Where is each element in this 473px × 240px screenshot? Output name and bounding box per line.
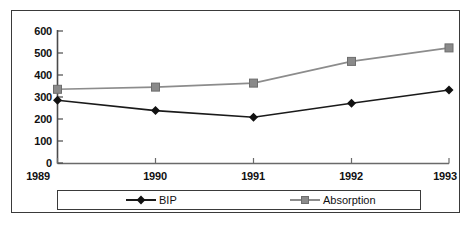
y-tick-label-400: 400 xyxy=(22,69,52,81)
y-tick-label-600: 600 xyxy=(22,25,52,37)
legend-label-absorption: Absorption xyxy=(323,194,376,206)
legend-item-absorption: Absorption xyxy=(290,191,376,209)
legend-swatch-bip xyxy=(126,195,156,205)
x-axis-ticks xyxy=(58,158,450,164)
y-tick-label-0: 0 xyxy=(22,157,52,169)
y-tick-label-200: 200 xyxy=(22,113,52,125)
y-tick-label-100: 100 xyxy=(22,135,52,147)
y-tick-label-500: 500 xyxy=(22,47,52,59)
chart-legend: BIP Absorption xyxy=(57,190,421,210)
square-marker-icon xyxy=(301,196,309,204)
x-tick-label-1991: 1991 xyxy=(229,170,277,182)
series-markers-absorption xyxy=(54,44,454,93)
diamond-marker-icon xyxy=(137,196,146,205)
legend-label-bip: BIP xyxy=(159,194,177,206)
series-markers-bip xyxy=(53,86,454,122)
y-tick-label-300: 300 xyxy=(22,91,52,103)
x-tick-label-1992: 1992 xyxy=(327,170,375,182)
x-tick-label-1989: 1989 xyxy=(14,170,62,182)
legend-swatch-absorption xyxy=(290,195,320,205)
legend-item-bip: BIP xyxy=(126,191,177,209)
x-tick-label-1990: 1990 xyxy=(131,170,179,182)
x-tick-label-1993: 1993 xyxy=(421,170,469,182)
